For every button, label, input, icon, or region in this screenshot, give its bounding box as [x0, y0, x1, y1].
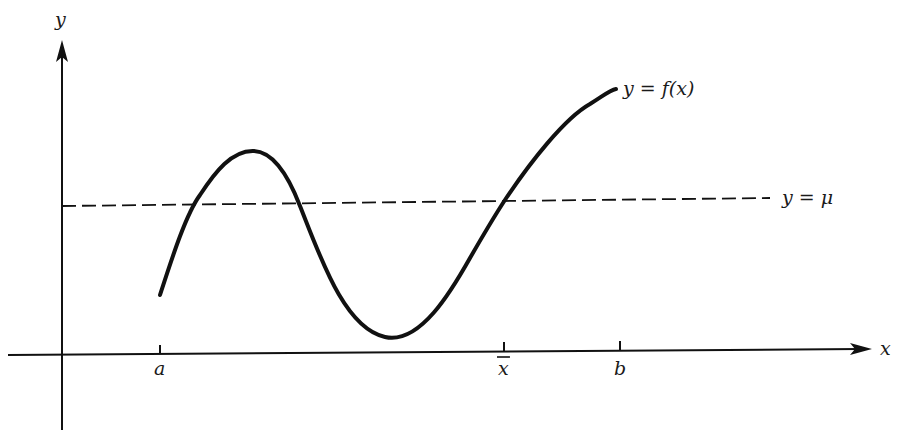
x-axis-label: x — [880, 337, 891, 359]
curve-label: y = f(x) — [622, 77, 694, 99]
tick-label-a: a — [154, 357, 165, 379]
function-curve — [160, 89, 616, 338]
mean-line — [62, 198, 770, 206]
mean-line-label: y = μ — [781, 186, 833, 208]
y-axis-label: y — [54, 8, 66, 30]
x-axis — [8, 349, 860, 355]
tick-label-b: b — [614, 357, 626, 379]
mean-value-theorem-diagram: y x a x b y = μ y = f(x) — [0, 0, 899, 446]
tick-label-x-bar: x — [498, 357, 509, 379]
